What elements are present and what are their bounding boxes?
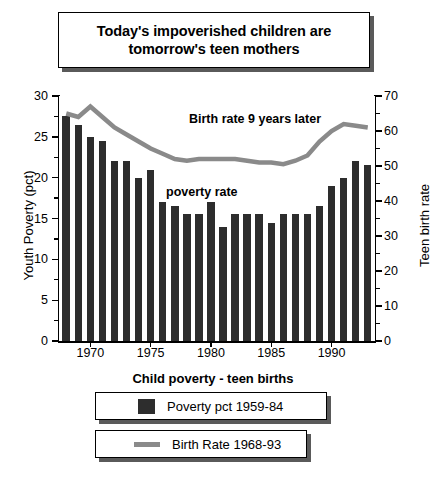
y-minor-tick-right [375, 148, 380, 149]
line-series-layer [59, 96, 375, 341]
y-tick-right [375, 235, 382, 236]
bar-swatch-icon [138, 399, 155, 414]
y-minor-tick-right [375, 218, 380, 219]
y-tick-right [375, 270, 382, 271]
x-tick-label: 1970 [76, 346, 104, 360]
y-minor-tick-right [375, 323, 380, 324]
y-tick-label-right: 0 [384, 334, 391, 348]
legend-label-birthrate: Birth Rate 1968-93 [172, 437, 281, 452]
legend-label-poverty: Poverty pct 1959-84 [167, 399, 283, 414]
y-tick-left [52, 300, 59, 301]
y-tick-label-right: 20 [384, 264, 398, 278]
y-tick-label-left: 15 [34, 212, 48, 226]
annotation-birth-rate: Birth rate 9 years later [189, 112, 321, 126]
title-line-1: Today's impoverished children are [97, 23, 331, 39]
line-swatch-icon [134, 442, 160, 447]
legend-item-birthrate[interactable]: Birth Rate 1968-93 [95, 430, 307, 458]
y-tick-left [52, 136, 59, 137]
y-tick-label-left: 5 [41, 293, 48, 307]
y-tick-right [375, 200, 382, 201]
y-tick-label-right: 10 [384, 299, 398, 313]
y-axis-right-title: Teen birth rate [417, 146, 432, 306]
x-axis-line [58, 341, 376, 343]
annotation-poverty-rate: poverty rate [166, 185, 238, 199]
x-tick-label: 1975 [137, 346, 165, 360]
x-tick-label: 1985 [257, 346, 285, 360]
y-tick-label-left: 30 [34, 89, 48, 103]
y-tick-left [52, 177, 59, 178]
y-minor-tick-right [375, 113, 380, 114]
y-tick-left [52, 340, 59, 341]
y-tick-right [375, 305, 382, 306]
x-tick-label: 1990 [318, 346, 346, 360]
y-tick-right [375, 95, 382, 96]
x-tick-label: 1980 [197, 346, 225, 360]
y-axis-left-title: Youth Poverty (pct) [21, 146, 36, 306]
y-minor-tick-right [375, 183, 380, 184]
y-tick-right [375, 130, 382, 131]
y-minor-tick-right [375, 288, 380, 289]
y-tick-label-right: 30 [384, 229, 398, 243]
y-tick-label-right: 70 [384, 89, 398, 103]
footer-caption: Child poverty - teen births [0, 371, 426, 386]
y-tick-label-right: 40 [384, 194, 398, 208]
legend-item-poverty[interactable]: Poverty pct 1959-84 [95, 392, 327, 420]
y-tick-right [375, 340, 382, 341]
y-tick-label-left: 0 [41, 334, 48, 348]
y-tick-label-left: 10 [34, 252, 48, 266]
title-line-2: tomorrow's teen mothers [128, 41, 299, 57]
y-tick-left [52, 218, 59, 219]
y-tick-label-right: 50 [384, 159, 398, 173]
y-minor-tick-right [375, 253, 380, 254]
y-tick-right [375, 165, 382, 166]
page-title: Today's impoverished children aretomorro… [97, 22, 331, 58]
y-tick-label-left: 20 [34, 171, 48, 185]
plot-area [59, 96, 375, 341]
y-tick-label-right: 60 [384, 124, 398, 138]
y-tick-left [52, 95, 59, 96]
y-tick-label-left: 25 [34, 130, 48, 144]
y-tick-left [52, 259, 59, 260]
title-plaque: Today's impoverished children aretomorro… [58, 12, 370, 68]
